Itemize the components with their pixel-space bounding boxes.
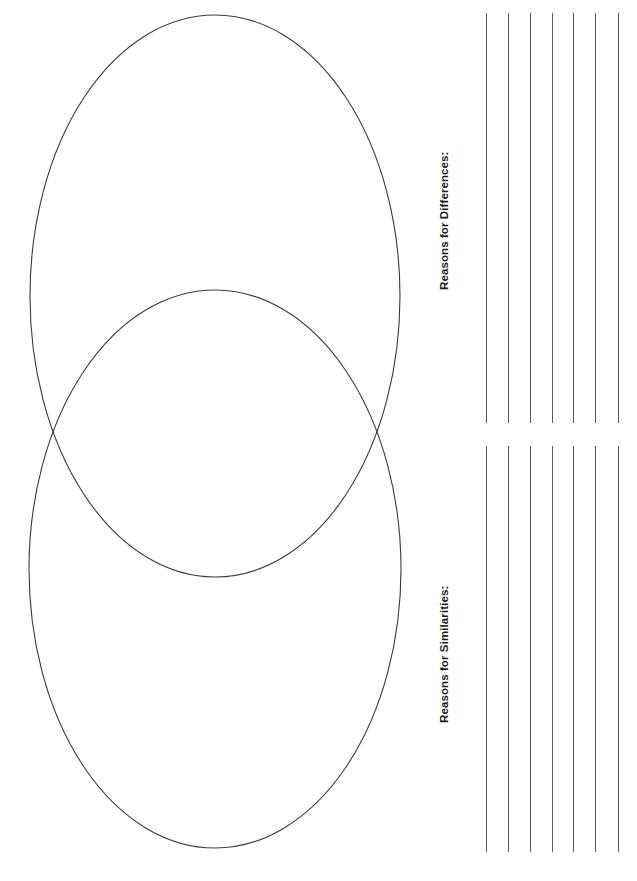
- rule-line[interactable]: [573, 13, 574, 423]
- rule-line[interactable]: [552, 446, 553, 852]
- rule-line[interactable]: [618, 446, 619, 852]
- section-differences: Reasons for Differences:: [420, 0, 637, 430]
- rule-line[interactable]: [573, 446, 574, 852]
- section-similarities: Reasons for Similarities:: [420, 437, 637, 881]
- worksheet-page: Reasons for Differences: Reasons for Sim…: [0, 0, 637, 881]
- rule-lines-differences: [420, 0, 637, 430]
- venn-diagram-svg: [0, 0, 420, 881]
- rule-line[interactable]: [486, 13, 487, 423]
- rule-line[interactable]: [508, 13, 509, 423]
- venn-diagram: [0, 0, 420, 881]
- rule-line[interactable]: [508, 446, 509, 852]
- rule-line[interactable]: [595, 446, 596, 852]
- writing-area: Reasons for Differences: Reasons for Sim…: [420, 0, 637, 881]
- rule-line[interactable]: [530, 446, 531, 852]
- venn-ellipse-top[interactable]: [30, 15, 400, 577]
- rule-line[interactable]: [530, 13, 531, 423]
- rule-line[interactable]: [486, 446, 487, 852]
- rule-line[interactable]: [595, 13, 596, 423]
- rule-line[interactable]: [552, 13, 553, 423]
- rule-line[interactable]: [618, 13, 619, 423]
- rule-lines-similarities: [420, 437, 637, 881]
- venn-ellipse-bottom[interactable]: [29, 290, 401, 848]
